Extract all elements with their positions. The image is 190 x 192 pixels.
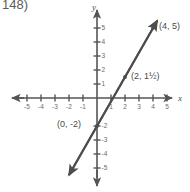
data-point-dot — [123, 75, 127, 79]
y-tick-label: -5 — [102, 164, 108, 171]
y-tick-label: 5 — [102, 24, 106, 31]
point-label-0: (4, 5) — [159, 21, 180, 31]
x-tick-label: 3 — [137, 103, 141, 110]
y-tick-label: -3 — [102, 136, 108, 143]
x-axis-letter-label: x — [177, 93, 182, 103]
data-point-dot — [95, 124, 99, 128]
y-axis-letter-label: y — [91, 2, 96, 12]
point-label-1: (2, 1½) — [131, 71, 160, 81]
x-tick-label: 5 — [165, 103, 169, 110]
y-tick-label: 2 — [102, 66, 106, 73]
point-label-2: (0, -2) — [57, 119, 81, 129]
x-tick-label: -4 — [38, 103, 44, 110]
x-tick-label: -1 — [80, 103, 86, 110]
x-tick-label: -2 — [66, 103, 72, 110]
y-tick-label: 1 — [102, 80, 106, 87]
x-tick-label: 2 — [123, 103, 127, 110]
x-tick-label: 4 — [151, 103, 155, 110]
y-tick-label: 4 — [102, 38, 106, 45]
point-annotations-group: (4, 5)(2, 1½)(0, -2) — [57, 21, 180, 129]
x-tick-label: -5 — [24, 103, 30, 110]
coordinate-plane: -5-4-3-2-11234554321-2-3-4-5 (4, 5)(2, 1… — [0, 0, 190, 192]
y-tick-label: -2 — [102, 122, 108, 129]
y-tick-label: 3 — [102, 52, 106, 59]
y-tick-label: -4 — [102, 150, 108, 157]
graph-figure: 148) -5-4-3-2-11234554321-2-3-4-5 (4, 5)… — [0, 0, 190, 192]
x-tick-label: -3 — [52, 103, 58, 110]
data-point-dot — [151, 26, 155, 30]
